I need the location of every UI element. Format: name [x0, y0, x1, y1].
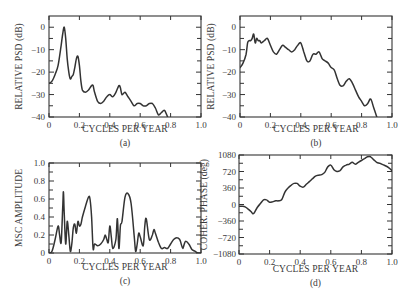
figure: 00.20.40.60.81.00−10−20−30−40CYCLES PER … — [0, 0, 407, 304]
x-tick-label: 1.0 — [386, 257, 398, 267]
panel-caption: (d) — [310, 278, 321, 289]
x-tick-label: 0 — [237, 257, 242, 267]
y-tick-label: 0 — [232, 200, 237, 210]
x-tick-label: 1.0 — [386, 120, 398, 130]
panel-d: 00.20.40.60.81.010807203600−360−720−1080… — [199, 150, 398, 289]
plot-frame — [49, 16, 201, 117]
y-tick-label: 0 — [41, 22, 46, 32]
panel-caption: (b) — [310, 138, 321, 149]
y-tick-label: 0.2 — [34, 230, 45, 240]
y-tick-label: 0 — [41, 248, 46, 258]
panel-b: 00.20.40.60.81.00−10−20−30−40CYCLES PER … — [206, 16, 398, 149]
y-tick-label: −20 — [31, 67, 46, 77]
series-line — [49, 192, 201, 253]
y-tick-label: −10 — [31, 45, 46, 55]
y-tick-label: −40 — [31, 112, 46, 122]
y-tick-label: 0.8 — [34, 176, 46, 186]
y-tick-label: 1080 — [218, 150, 237, 160]
panel-c: 00.20.40.60.81.000.20.40.60.81.0CYCLES P… — [14, 158, 207, 287]
x-tick-label: 0 — [47, 256, 52, 266]
x-tick-label: 0 — [47, 120, 52, 130]
panel-caption: (c) — [120, 276, 131, 287]
x-axis-label: CYCLES PER YEAR — [273, 124, 359, 134]
y-axis-label: RELATIVE PSD (dB) — [14, 23, 25, 110]
y-tick-label: −30 — [222, 90, 237, 100]
x-axis-label: CYCLES PER YEAR — [273, 264, 359, 274]
panel-a: 00.20.40.60.81.00−10−20−30−40CYCLES PER … — [14, 16, 207, 149]
y-tick-label: 360 — [223, 183, 237, 193]
y-tick-label: −720 — [217, 233, 236, 243]
y-axis-label: RELATIVE PSD (dB) — [206, 23, 217, 110]
x-tick-label: 1.0 — [195, 120, 207, 130]
x-axis-label: CYCLES PER YEAR — [82, 124, 168, 134]
y-tick-label: −1080 — [213, 249, 237, 259]
series-line — [239, 157, 392, 214]
y-tick-label: −10 — [222, 45, 237, 55]
y-tick-label: 720 — [223, 167, 237, 177]
series-line — [240, 34, 377, 117]
panel-caption: (a) — [120, 138, 131, 149]
y-tick-label: −40 — [222, 112, 237, 122]
y-tick-label: 0.4 — [34, 212, 46, 222]
y-tick-label: 1.0 — [34, 158, 46, 168]
y-axis-label: COHER. PHASE (deg) — [199, 159, 210, 250]
x-tick-label: 1.0 — [195, 256, 207, 266]
y-tick-label: −20 — [222, 67, 237, 77]
y-axis-label: MSC AMPLITUDE — [14, 169, 24, 247]
x-axis-label: CYCLES PER YEAR — [82, 262, 168, 272]
series-line — [49, 27, 168, 117]
plot-frame — [239, 155, 392, 254]
y-tick-label: 0 — [232, 22, 237, 32]
y-tick-label: −30 — [31, 90, 46, 100]
x-tick-label: 0 — [238, 120, 243, 130]
y-tick-label: −360 — [217, 216, 236, 226]
y-tick-label: 0.6 — [34, 194, 46, 204]
